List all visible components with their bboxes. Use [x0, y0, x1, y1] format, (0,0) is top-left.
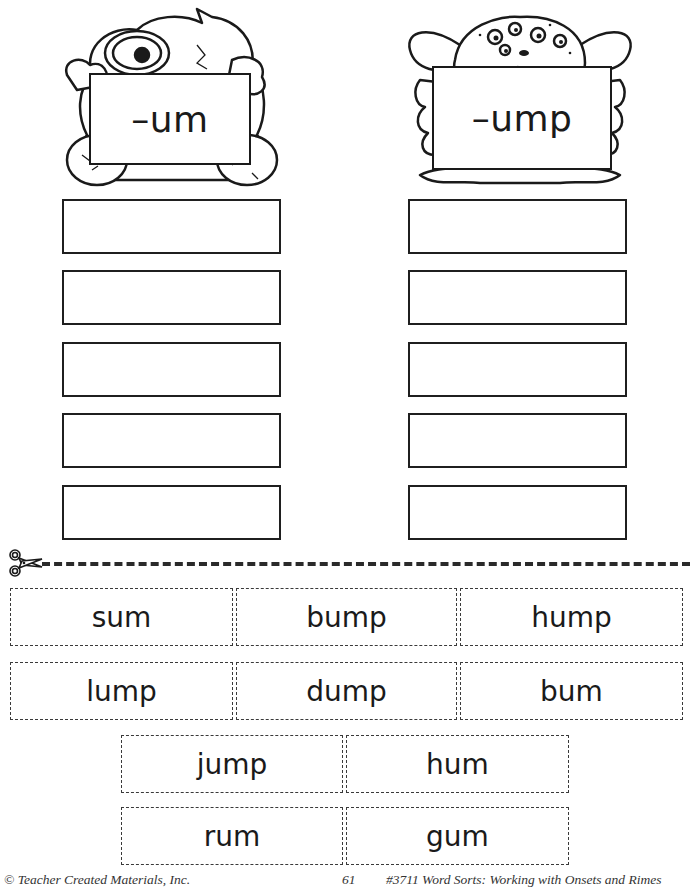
word-card[interactable]: gum [346, 807, 569, 865]
answer-box[interactable] [62, 199, 281, 254]
footer-page-number: 61 [342, 872, 356, 888]
word-card[interactable]: dump [236, 662, 457, 720]
word-label: gum [426, 820, 489, 853]
word-label: bum [540, 675, 603, 708]
word-card[interactable]: sum [10, 588, 233, 646]
answer-box[interactable] [408, 413, 627, 468]
word-label: hump [531, 601, 612, 634]
rime-sign-um: –um [89, 73, 251, 165]
footer-book-title: #3711 Word Sorts: Working with Onsets an… [386, 872, 661, 888]
word-card[interactable]: rum [121, 807, 343, 865]
word-label: hum [426, 748, 489, 781]
answer-box[interactable] [62, 342, 281, 397]
answer-box[interactable] [408, 485, 627, 540]
answer-box[interactable] [62, 413, 281, 468]
word-card[interactable]: jump [121, 735, 343, 793]
answer-box[interactable] [408, 199, 627, 254]
answer-box[interactable] [408, 270, 627, 325]
word-label: lump [86, 675, 157, 708]
word-label: bump [306, 601, 387, 634]
cut-line [42, 562, 690, 566]
answer-box[interactable] [62, 270, 281, 325]
word-card[interactable]: bump [236, 588, 457, 646]
word-card[interactable]: lump [10, 662, 233, 720]
word-card[interactable]: bum [460, 662, 683, 720]
word-label: sum [92, 601, 152, 634]
rime-label: –ump [472, 98, 573, 139]
word-label: rum [204, 820, 261, 853]
rime-label: –um [131, 99, 208, 140]
rime-sign-ump: –ump [432, 66, 612, 170]
answer-box[interactable] [62, 485, 281, 540]
scissors-icon [8, 548, 44, 578]
footer-copyright: © Teacher Created Materials, Inc. [4, 872, 190, 888]
word-label: jump [197, 748, 268, 781]
word-card[interactable]: hum [346, 735, 569, 793]
answer-box[interactable] [408, 342, 627, 397]
word-card[interactable]: hump [460, 588, 683, 646]
word-label: dump [306, 675, 387, 708]
